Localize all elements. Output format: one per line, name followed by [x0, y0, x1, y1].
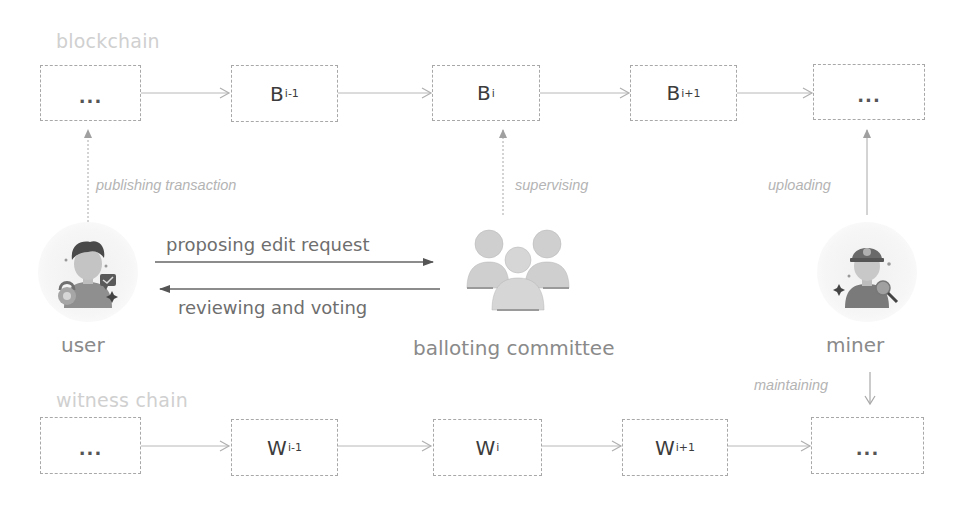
miner-label: miner	[826, 333, 884, 357]
block-next-ellipsis[interactable]: ...	[813, 64, 925, 120]
witness-next-ellipsis[interactable]: ...	[811, 417, 924, 474]
witness-chain-label: witness chain	[56, 389, 188, 411]
user-avatar-icon[interactable]	[38, 222, 138, 322]
balloting-committee-label: balloting committee	[413, 336, 614, 360]
block-prev-ellipsis[interactable]: ...	[40, 65, 141, 121]
block-b-i-minus-1[interactable]: Bi-1	[231, 65, 338, 122]
blockchain-label: blockchain	[56, 30, 160, 52]
block-b-i-plus-1[interactable]: Bi+1	[630, 65, 737, 121]
witness-prev-ellipsis[interactable]: ...	[40, 417, 141, 474]
reviewing-and-voting-label: reviewing and voting	[178, 297, 367, 318]
group-icon[interactable]	[465, 228, 575, 318]
user-label: user	[61, 333, 105, 357]
maintaining-label: maintaining	[754, 377, 828, 393]
block-b-i[interactable]: Bi	[432, 65, 540, 121]
witness-w-i-plus-1[interactable]: Wi+1	[622, 419, 728, 476]
witness-w-i-minus-1[interactable]: Wi-1	[231, 419, 338, 476]
supervising-label: supervising	[515, 177, 588, 193]
uploading-label: uploading	[768, 177, 831, 193]
proposing-edit-request-label: proposing edit request	[166, 234, 370, 255]
maintaining-arrow	[865, 372, 875, 404]
publishing-transaction-label: publishing transaction	[96, 177, 236, 193]
witness-w-i[interactable]: Wi	[433, 419, 542, 476]
miner-avatar-icon[interactable]	[817, 222, 917, 322]
